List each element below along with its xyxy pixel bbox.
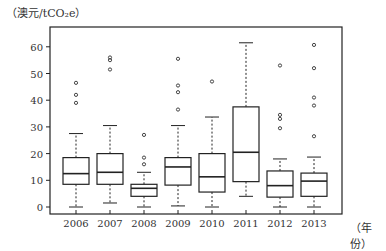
outlier-point xyxy=(278,127,281,130)
outlier-point xyxy=(176,91,179,94)
iqr-box xyxy=(63,158,89,185)
outlier-point xyxy=(312,135,315,138)
y-tick-label: 20 xyxy=(30,149,43,160)
outlier-point xyxy=(108,56,111,59)
y-tick-label: 0 xyxy=(37,202,43,213)
outlier-point xyxy=(312,43,315,46)
outlier-point xyxy=(74,101,77,104)
x-tick-label: 2006 xyxy=(63,218,88,229)
outlier-point xyxy=(176,84,179,87)
y-tick-label: 50 xyxy=(30,69,43,80)
outlier-point xyxy=(176,57,179,60)
outlier-point xyxy=(312,67,315,70)
x-tick-label: 2011 xyxy=(233,218,258,229)
outlier-point xyxy=(74,93,77,96)
outlier-point xyxy=(312,96,315,99)
y-tick-label: 30 xyxy=(30,122,43,133)
x-tick-label: 2007 xyxy=(97,218,122,229)
outlier-point xyxy=(278,117,281,120)
outlier-point xyxy=(142,163,145,166)
outlier-point xyxy=(142,133,145,136)
outlier-point xyxy=(278,64,281,67)
x-tick-label: 2013 xyxy=(301,218,326,229)
outlier-point xyxy=(108,68,111,71)
iqr-box xyxy=(97,154,123,185)
y-tick-label: 10 xyxy=(30,175,43,186)
x-tick-label: 2012 xyxy=(267,218,292,229)
outlier-point xyxy=(312,104,315,107)
outlier-point xyxy=(176,108,179,111)
iqr-box xyxy=(165,158,191,186)
y-tick-label: 60 xyxy=(30,42,43,53)
x-tick-label: 2009 xyxy=(165,218,190,229)
outlier-point xyxy=(142,156,145,159)
iqr-box xyxy=(131,184,157,196)
plot-frame xyxy=(50,27,342,214)
y-tick-label: 40 xyxy=(30,95,43,106)
x-tick-label: 2008 xyxy=(131,218,156,229)
outlier-point xyxy=(278,113,281,116)
outlier-point xyxy=(74,81,77,84)
outlier-point xyxy=(210,80,213,83)
x-axis-unit-label: （年份） xyxy=(350,219,386,251)
iqr-box xyxy=(267,171,293,197)
iqr-box xyxy=(199,154,225,192)
x-tick-label: 2010 xyxy=(199,218,224,229)
iqr-box xyxy=(301,173,327,196)
iqr-box xyxy=(233,107,259,182)
